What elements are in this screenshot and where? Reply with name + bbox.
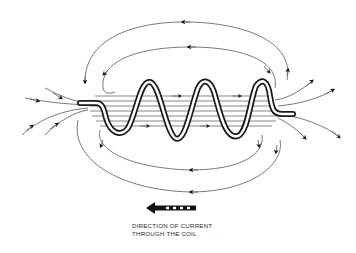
coil xyxy=(80,81,293,138)
caption-line-2: THROUGH THE COIL xyxy=(132,230,212,238)
field-line-top-outer xyxy=(85,22,288,82)
field-line-top-inner xyxy=(103,47,276,93)
solenoid-field-diagram xyxy=(0,0,356,253)
current-direction-caption: DIRECTION OF CURRENT THROUGH THE COIL xyxy=(132,222,212,237)
field-lines-right-end xyxy=(275,81,339,138)
field-lines-left-end xyxy=(22,88,88,135)
current-direction-arrow xyxy=(146,202,196,214)
field-line-bottom-outer xyxy=(77,120,280,192)
caption-line-1: DIRECTION OF CURRENT xyxy=(132,222,212,230)
